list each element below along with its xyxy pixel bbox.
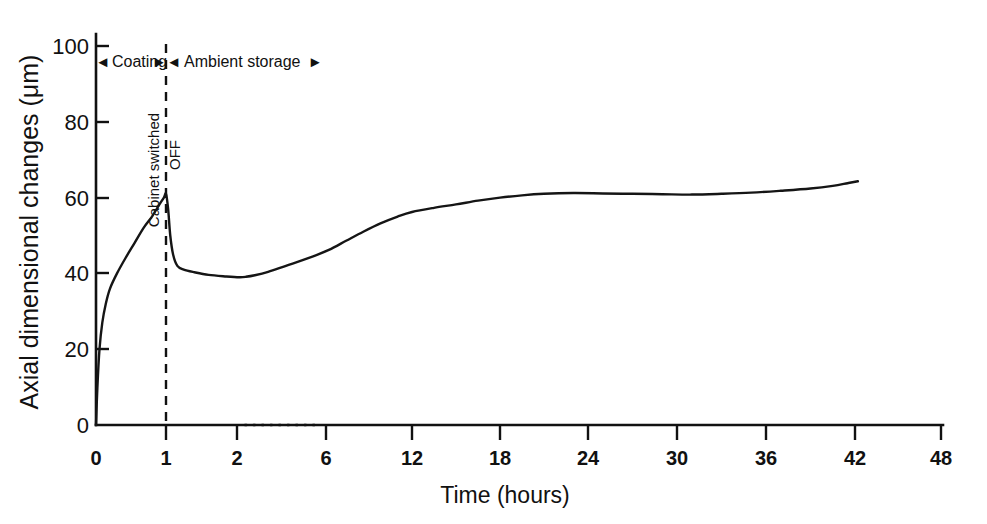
phase-annotation-coating: ◂ Coating ▸: [98, 53, 167, 70]
y-tick-label-40: 40: [65, 261, 89, 286]
x-tick-label-42: 42: [844, 447, 866, 469]
chart-svg: 100 80 60 40 20 0 0 1 2 6 1: [0, 0, 987, 524]
x-axis-ticks: [166, 425, 941, 440]
y-tick-label-0: 0: [77, 413, 89, 438]
x-tick-label-36: 36: [755, 447, 777, 469]
data-series-line: [96, 181, 858, 425]
y-axis-tick-labels: 100 80 60 40 20 0: [52, 34, 89, 438]
x-tick-label-6: 6: [320, 447, 331, 469]
cabinet-switched-label: Cabinet switched: [145, 113, 162, 227]
x-tick-label-24: 24: [577, 447, 600, 469]
phase-annotation-ambient: ◂ Ambient storage ▸: [169, 53, 320, 70]
chart-figure: 100 80 60 40 20 0 0 1 2 6 1: [0, 0, 987, 524]
y-tick-label-60: 60: [65, 186, 89, 211]
arrow-left-icon-ambient: ◂: [169, 53, 179, 70]
x-axis-title: Time (hours): [440, 482, 570, 508]
x-tick-label-30: 30: [666, 447, 688, 469]
y-axis-title: Axial dimensional changes (μm): [15, 55, 43, 410]
x-tick-label-0: 0: [90, 447, 101, 469]
x-tick-label-2: 2: [231, 447, 242, 469]
x-tick-label-12: 12: [401, 447, 423, 469]
phase-ambient-label: Ambient storage: [184, 53, 301, 70]
arrow-left-icon: ◂: [98, 53, 108, 70]
x-tick-label-1: 1: [160, 447, 171, 469]
y-tick-label-80: 80: [65, 110, 89, 135]
x-axis-tick-labels: 0 1 2 6 12 18 24 30 36 42 48: [90, 447, 952, 469]
cabinet-off-label: OFF: [166, 140, 183, 170]
y-tick-label-100: 100: [52, 34, 89, 59]
arrow-right-icon-ambient: ▸: [310, 53, 320, 70]
x-tick-label-48: 48: [930, 447, 952, 469]
arrow-right-icon: ▸: [154, 53, 164, 70]
y-tick-label-20: 20: [65, 337, 89, 362]
x-tick-label-18: 18: [489, 447, 511, 469]
